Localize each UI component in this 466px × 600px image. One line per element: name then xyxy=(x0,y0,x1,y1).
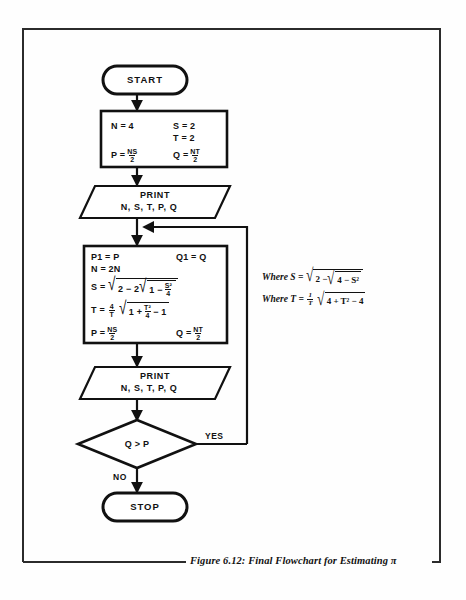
compute-q-fraction: NT2 xyxy=(192,326,204,342)
annotation-where-t: Where T = 1T √4 + T² − 4 xyxy=(262,292,365,308)
init-p-denominator: 2 xyxy=(129,155,135,163)
init-q-lhs: Q = xyxy=(173,150,188,160)
compute-t-inner-fraction: T²4 xyxy=(143,304,152,320)
init-p-lhs: P = xyxy=(111,150,125,160)
compute-t-inner-numerator: T² xyxy=(143,304,152,311)
compute-p-lhs: P = xyxy=(91,328,105,338)
annotation-where-t-coefficient: 1T xyxy=(307,292,313,308)
compute-q1-assign: Q1 = Q xyxy=(176,252,206,262)
compute-s-outer-text: 2 − 2 xyxy=(118,284,139,294)
radical-sign-icon: √ xyxy=(119,299,127,319)
compute-q-lhs: Q = xyxy=(176,328,191,338)
init-n-value: N = 4 xyxy=(111,121,134,131)
radical-sign-icon: √ xyxy=(139,277,147,297)
compute-s-inner-numerator: S² xyxy=(164,282,173,289)
annotation-where-s: Where S = √2 −√4 − S² xyxy=(262,269,363,287)
init-t-value: T = 2 xyxy=(173,133,195,143)
annotation-where-t-radical-body: 4 + T² − 4 xyxy=(325,292,366,308)
compute-s-inner-text: 1 − xyxy=(149,285,162,295)
figure-page: START N = 4 S = 2 T = 2 P =NS2 Q =NT2 PR… xyxy=(0,0,466,600)
annotation-where-s-outer-text: 2 − xyxy=(315,274,327,284)
compute-p-numerator: NS xyxy=(106,326,118,333)
compute-n-assign: N = 2N xyxy=(91,264,120,274)
compute-t-expression: T = 4T √1 +T²4− 1 xyxy=(91,302,169,320)
print2-line1: PRINT xyxy=(105,371,205,381)
init-q-expression: Q =NT2 xyxy=(173,148,202,164)
init-p-expression: P =NS2 xyxy=(111,148,139,164)
init-p-numerator: NS xyxy=(126,148,138,155)
compute-t-inner-a: 1 + xyxy=(129,307,142,317)
flowchart-canvas xyxy=(0,0,466,600)
compute-q-denominator: 2 xyxy=(195,333,201,341)
compute-p-denominator: 2 xyxy=(109,333,115,341)
radical-sign-icon: √ xyxy=(306,266,313,287)
compute-p-fraction: NS2 xyxy=(106,326,118,342)
annotation-where-s-outer-body: 2 −√4 − S² xyxy=(313,269,363,287)
compute-t-inner-b: − 1 xyxy=(153,307,166,317)
radical-sign-icon: √ xyxy=(108,275,116,298)
compute-p-expression: P =NS2 xyxy=(91,326,119,342)
init-q-fraction: NT2 xyxy=(189,148,201,164)
compute-t-coef-numerator: 4 xyxy=(109,303,115,310)
compute-t-lhs: T = xyxy=(91,305,105,315)
decision-no-label: NO xyxy=(113,472,127,482)
decision-yes-label: YES xyxy=(205,431,224,441)
compute-s-expression: S = √2 − 2√1 −S²4 xyxy=(91,278,178,298)
compute-s-inner-denominator: 4 xyxy=(165,289,171,297)
compute-t-coefficient-fraction: 4T xyxy=(109,303,115,319)
print2-line2: N, S, T, P, Q xyxy=(99,383,199,393)
print1-line2: N, S, T, P, Q xyxy=(99,202,199,212)
compute-s-inner-fraction: S²4 xyxy=(164,282,173,298)
compute-s-outer-body: 2 − 2√1 −S²4 xyxy=(116,278,178,298)
radical-sign-icon: √ xyxy=(327,269,334,287)
compute-t-radical: √1 +T²4− 1 xyxy=(119,302,169,320)
compute-q-numerator: NT xyxy=(192,326,204,333)
init-s-value: S = 2 xyxy=(173,121,195,131)
compute-t-radical-body: 1 +T²4− 1 xyxy=(127,302,169,320)
decision-label: Q > P xyxy=(78,439,196,449)
compute-q-expression: Q =NT2 xyxy=(176,326,205,342)
compute-p1-assign: P1 = P xyxy=(91,252,119,262)
annotation-where-s-inner-radical: √4 − S² xyxy=(327,271,361,287)
annotation-where-t-coef-denominator: T xyxy=(307,299,313,307)
compute-s-inner-body: 1 −S²4 xyxy=(147,280,176,298)
compute-s-lhs: S = xyxy=(91,282,105,292)
annotation-where-t-prefix: Where T = xyxy=(262,294,304,304)
compute-t-inner-denominator: 4 xyxy=(145,311,151,319)
annotation-where-t-coef-numerator: 1 xyxy=(308,292,314,299)
compute-s-inner-radical: √1 −S²4 xyxy=(139,280,176,298)
compute-s-outer-radical: √2 − 2√1 −S²4 xyxy=(108,278,178,298)
print1-line1: PRINT xyxy=(105,190,205,200)
compute-t-coef-denominator: T xyxy=(109,310,115,318)
annotation-where-s-inner-body: 4 − S² xyxy=(335,271,361,287)
init-q-denominator: 2 xyxy=(192,155,198,163)
node-stop-label: STOP xyxy=(103,501,187,512)
annotation-where-s-prefix: Where S = xyxy=(262,272,303,282)
init-p-fraction: NS2 xyxy=(126,148,138,164)
annotation-where-s-outer-radical: √2 −√4 − S² xyxy=(306,269,363,287)
radical-sign-icon: √ xyxy=(317,290,324,308)
node-start-label: START xyxy=(103,74,187,85)
init-q-numerator: NT xyxy=(189,148,201,155)
annotation-where-t-radical: √4 + T² − 4 xyxy=(317,292,366,308)
figure-caption: Figure 6.12: Final Flowchart for Estimat… xyxy=(190,555,397,566)
